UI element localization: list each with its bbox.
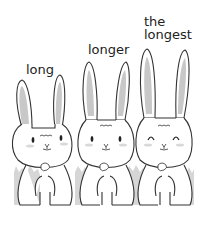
label-long: long [26,64,54,76]
label-longer: longer [88,44,129,56]
rabbit-longest-ears [136,49,192,205]
label-longest: longest [144,29,192,41]
rabbit-long-ears [12,75,72,205]
rabbit-longer-ears [78,62,134,205]
